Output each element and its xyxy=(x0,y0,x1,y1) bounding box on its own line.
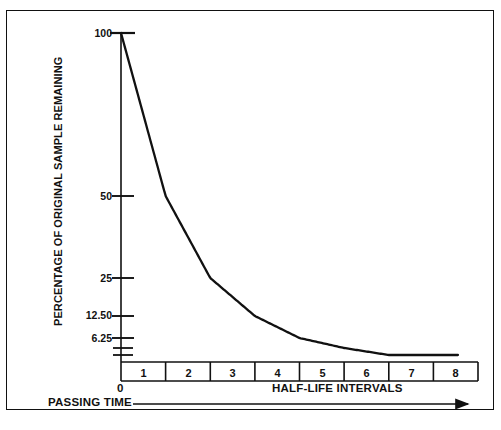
half-life-decay-curve xyxy=(121,33,458,355)
figure-container: PERCENTAGE OF ORIGINAL SAMPLE REMAINING … xyxy=(0,0,501,430)
cut-off-caption xyxy=(8,420,308,429)
chart-plot-area xyxy=(0,0,501,430)
